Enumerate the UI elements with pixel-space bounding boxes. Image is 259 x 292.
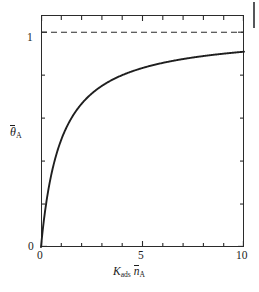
overbar-rule bbox=[134, 265, 139, 266]
x-axis-k-subscript: ads bbox=[121, 270, 131, 279]
y-axis-title: θA bbox=[10, 126, 22, 140]
y-axis-theta-overbar: θ bbox=[10, 126, 16, 138]
page-rule-mark bbox=[253, 2, 255, 28]
x-tick-label-10: 10 bbox=[236, 250, 248, 262]
plot-canvas bbox=[41, 15, 244, 247]
x-axis-n-subscript: A bbox=[140, 270, 145, 279]
y-axis-theta-symbol: θ bbox=[10, 125, 16, 139]
y-axis-subscript: A bbox=[16, 131, 22, 140]
x-axis-k-symbol: K bbox=[113, 265, 121, 277]
x-tick-label-5: 5 bbox=[138, 250, 144, 262]
langmuir-isotherm-curve bbox=[41, 52, 244, 247]
x-axis-n-symbol: n bbox=[134, 265, 140, 277]
figure-container: 1 0 0 5 10 θA KadsnA bbox=[0, 0, 259, 292]
x-tick-label-0: 0 bbox=[37, 250, 43, 262]
x-axis-top-ticks bbox=[42, 15, 244, 21]
x-axis-major-ticks bbox=[42, 241, 244, 247]
x-axis-n-overbar: n bbox=[134, 266, 140, 278]
y-tick-label-0: 0 bbox=[28, 241, 34, 253]
y-axis-right-ticks bbox=[238, 32, 244, 246]
x-axis-title: KadsnA bbox=[113, 266, 145, 278]
overbar-rule bbox=[10, 125, 15, 126]
y-tick-label-1: 1 bbox=[27, 32, 33, 44]
